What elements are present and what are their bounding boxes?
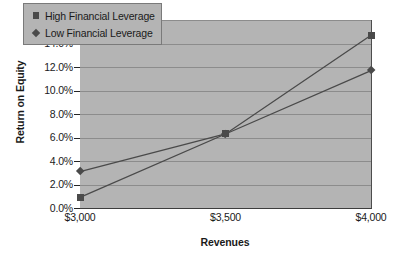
series-line <box>80 35 371 197</box>
legend-item: High Financial Leverage <box>29 7 155 24</box>
data-point-marker-square <box>368 32 375 39</box>
line-chart: Return on Equity 0.0%2.0%4.0%6.0%8.0%10.… <box>0 0 393 260</box>
square-marker-icon <box>29 12 43 19</box>
x-axis-tick-label: $3,500 <box>186 212 266 223</box>
legend-item: Low Financial Leverage <box>29 24 155 41</box>
legend-swatch <box>32 28 40 36</box>
y-axis-tick-label: 8.0% <box>27 109 73 120</box>
y-axis-tick-label: 2.0% <box>27 179 73 190</box>
series-lines <box>80 20 371 208</box>
legend-swatch <box>33 12 40 19</box>
x-axis-tick-label: $4,000 <box>331 212 393 223</box>
x-axis-title: Revenues <box>79 236 371 248</box>
legend-item-label: Low Financial Leverage <box>43 27 153 39</box>
legend-item-label: High Financial Leverage <box>43 10 155 22</box>
chart-legend: High Financial LeverageLow Financial Lev… <box>23 3 162 45</box>
diamond-marker-icon <box>29 30 43 36</box>
plot-area <box>80 20 372 209</box>
y-axis-tick-label: 6.0% <box>27 132 73 143</box>
x-axis-tick-label: $3,000 <box>40 212 120 223</box>
y-axis-tick-label: 12.0% <box>27 62 73 73</box>
y-axis-tick-label: 10.0% <box>27 85 73 96</box>
y-axis-title: Return on Equity <box>14 37 26 167</box>
series-line <box>80 71 371 172</box>
data-point-marker-square <box>77 194 84 201</box>
y-axis-tick-label: 4.0% <box>27 156 73 167</box>
